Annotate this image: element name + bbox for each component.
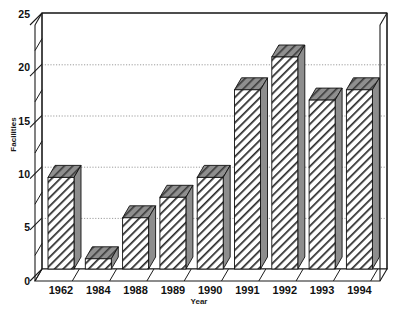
bar-1994 [346,78,379,269]
x-tick-label-1992: 1992 [266,283,304,297]
bar-1984 [85,247,118,269]
x-tick-label-1988: 1988 [117,283,155,297]
x-tick-label-1984: 1984 [79,283,117,297]
bar-1962 [48,165,81,269]
y-axis [30,13,42,281]
x-tick-label-1993: 1993 [303,283,341,297]
x-tick-label-1991: 1991 [229,283,267,297]
bar-1989 [160,185,193,269]
bar-1993 [309,88,342,269]
bar-1991 [235,78,268,269]
x-tick-label-1990: 1990 [191,283,229,297]
x-axis-title: Year [0,297,398,306]
bar-1988 [123,206,156,269]
bar-1990 [197,165,230,269]
bar-chart-figure: Facilities 0 5 10 15 20 25 [0,0,398,320]
plot-area [0,0,398,320]
x-tick-label-1962: 1962 [42,283,80,297]
x-tick-label-1989: 1989 [154,283,192,297]
x-tick-label-1994: 1994 [340,283,378,297]
bar-1992 [272,45,305,269]
